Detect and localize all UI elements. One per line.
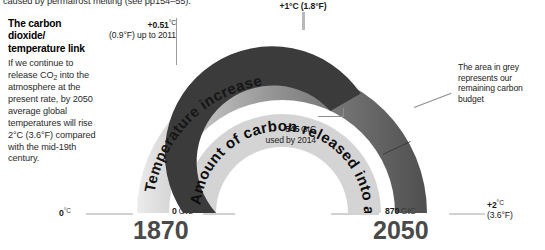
callout-grey-area-note: The area in grey represents our remainin… bbox=[458, 62, 542, 105]
axis-label-left-temperature: 0°C bbox=[59, 206, 71, 218]
infographic-canvas: caused by permafrost melting (see pp154–… bbox=[0, 0, 545, 250]
callout-carbon-used-sub: used by 2014 bbox=[266, 135, 316, 145]
leader-line-temp-top bbox=[302, 12, 305, 30]
callout-temp-top-value: +1°C (1.8°F) bbox=[280, 1, 327, 11]
axis-label-left-temperature-unit: °C bbox=[64, 207, 71, 214]
callout-temp-2050-unit: °C bbox=[497, 199, 504, 206]
sidebar-body-part2: into the atmosphere at the present rate,… bbox=[8, 70, 96, 163]
callout-temp-2050-value: +2 bbox=[487, 200, 497, 210]
callout-temp-2011-value: +0.51 bbox=[148, 20, 169, 30]
co2-subscript: 2 bbox=[53, 74, 57, 81]
callout-grey-area-text: The area in grey represents our remainin… bbox=[458, 62, 523, 104]
callout-temp-2050-sub: (3.6°F) bbox=[487, 210, 513, 220]
callout-temp-2011: +0.51°C (0.9°F) up to 2011 bbox=[104, 17, 176, 41]
leader-line-carbon-used bbox=[318, 116, 344, 117]
sidebar-text-block: The carbon dioxide/ temperature link If … bbox=[8, 18, 100, 165]
callout-temp-2011-sub: (0.9°F) up to 2011 bbox=[109, 30, 176, 40]
baseline-rule-right-inner bbox=[331, 213, 379, 215]
baseline-rule-left-inner bbox=[203, 213, 235, 215]
sidebar-body: If we continue to release CO2 into the a… bbox=[8, 58, 100, 165]
callout-temp-2011-unit: °C bbox=[169, 19, 176, 26]
callout-carbon-used-value: 545 bbox=[285, 124, 299, 134]
leader-line-carbon-used-tick bbox=[343, 108, 344, 117]
page-title: The carbon dioxide/ temperature link bbox=[8, 18, 100, 55]
baseline-rule-left-outer bbox=[86, 213, 133, 215]
callout-temp-top: +1°C (1.8°F) bbox=[243, 1, 363, 11]
year-label-end: 2050 bbox=[373, 215, 429, 245]
callout-temp-2050: +2°C (3.6°F) bbox=[487, 197, 543, 221]
baseline-rule-right-outer bbox=[449, 213, 485, 215]
callout-carbon-used-unit: GtC bbox=[301, 124, 316, 134]
leader-line-temp-2011 bbox=[176, 18, 177, 65]
year-label-start: 1870 bbox=[133, 215, 189, 245]
callout-carbon-used: 545 GtC used by 2014 bbox=[238, 124, 316, 146]
